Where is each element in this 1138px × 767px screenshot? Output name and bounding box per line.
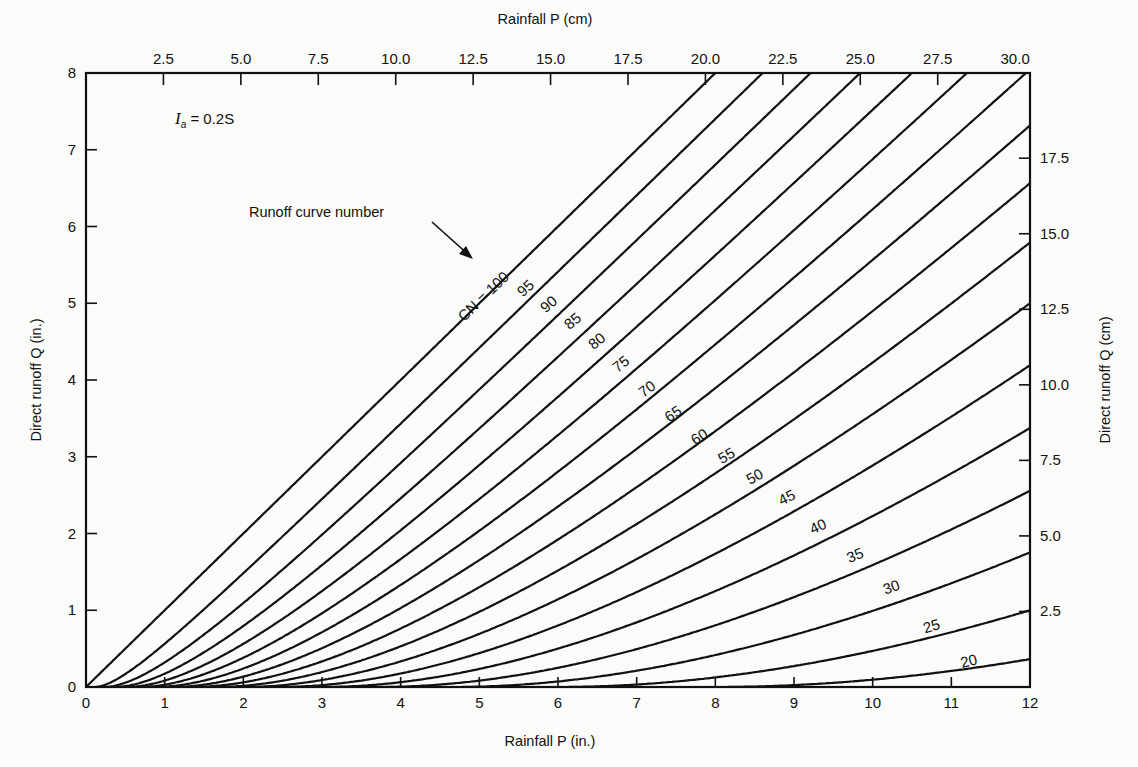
cn-curve-75 (86, 73, 967, 687)
cn-label-80: 80 (585, 329, 609, 353)
y-tick-label: 5 (68, 294, 76, 311)
x-tick-label: 10 (864, 694, 881, 711)
y-tick-label: 0 (68, 678, 76, 695)
cn-label-100: CN = 100 (454, 268, 512, 325)
y-right-tick-label: 10.0 (1040, 376, 1069, 393)
x-top-tick-label: 15.0 (536, 50, 565, 67)
formula-rest: = 0.2S (186, 110, 234, 127)
x-top-tick-label: 12.5 (459, 50, 488, 67)
runoff-curve-number-annotation: Runoff curve number (249, 204, 384, 220)
x-tick-label: 9 (790, 694, 798, 711)
y-right-tick-label: 7.5 (1040, 451, 1061, 468)
y-tick-label: 2 (68, 525, 76, 542)
y-right-tick-label: 2.5 (1040, 602, 1061, 619)
x-tick-label: 8 (711, 694, 719, 711)
y-tick-label: 4 (68, 371, 76, 388)
x-tick-label: 12 (1022, 694, 1039, 711)
cn-label-60: 60 (688, 425, 711, 448)
x-tick-label: 6 (554, 694, 562, 711)
x-tick-label: 1 (160, 694, 168, 711)
cn-curve-55 (86, 243, 1030, 688)
runoff-chart: CN = 10095908580757065605550454035302520… (0, 0, 1138, 767)
y-right-tick-label: 15.0 (1040, 225, 1069, 242)
x-top-tick-label: 25.0 (846, 50, 875, 67)
x-top-tick-label: 2.5 (153, 50, 174, 67)
y-right-tick-label: 17.5 (1040, 149, 1069, 166)
cn-label-45: 45 (775, 486, 797, 509)
y-tick-label: 6 (68, 218, 76, 235)
x-top-tick-label: 27.5 (923, 50, 952, 67)
annotation-arrow-icon (432, 222, 473, 259)
x-top-tick-label: 20.0 (691, 50, 720, 67)
cn-label-35: 35 (844, 544, 866, 566)
bottom-axis-title: Rainfall P (in.) (505, 733, 596, 749)
axis-ticks: 01234567891011120123456782.55.07.510.012… (68, 50, 1070, 711)
x-tick-label: 3 (318, 694, 326, 711)
cn-label-40: 40 (807, 515, 829, 537)
cn-label-25: 25 (921, 615, 942, 636)
x-tick-label: 5 (475, 694, 483, 711)
x-tick-label: 2 (239, 694, 247, 711)
x-top-tick-label: 22.5 (768, 50, 797, 67)
cn-curve-85 (86, 73, 861, 687)
cn-label-85: 85 (561, 309, 585, 333)
y-right-tick-label: 12.5 (1040, 300, 1069, 317)
cn-curve-90 (86, 73, 812, 687)
y-tick-label: 7 (68, 141, 76, 158)
x-tick-label: 7 (632, 694, 640, 711)
x-tick-label: 0 (82, 694, 90, 711)
cn-curve-45 (86, 365, 1030, 687)
cn-curve-50 (86, 303, 1030, 687)
cn-label-30: 30 (880, 576, 901, 598)
y-tick-label: 8 (68, 64, 76, 81)
cn-label-50: 50 (743, 465, 766, 488)
cn-label-55: 55 (715, 444, 738, 467)
y-right-tick-label: 5.0 (1040, 527, 1061, 544)
x-top-tick-label: 5.0 (230, 50, 251, 67)
x-tick-label: 11 (944, 694, 960, 711)
top-axis-title: Rainfall P (cm) (498, 11, 593, 27)
cn-curve-80 (86, 73, 914, 687)
x-top-tick-label: 17.5 (613, 50, 642, 67)
x-tick-label: 4 (396, 694, 404, 711)
y-tick-label: 1 (68, 601, 76, 618)
cn-curve-65 (86, 126, 1030, 688)
x-top-tick-label: 10.0 (381, 50, 410, 67)
formula-annotation: Ia = 0.2S (174, 109, 234, 130)
y-tick-label: 3 (68, 448, 76, 465)
x-top-tick-label: 7.5 (308, 50, 329, 67)
cn-label-75: 75 (609, 352, 633, 376)
cn-label-70: 70 (635, 377, 658, 401)
cn-label-90: 90 (537, 292, 561, 316)
left-axis-title: Direct runoff Q (in.) (28, 318, 44, 441)
cn-label-65: 65 (661, 402, 684, 425)
x-top-tick-label: 30.0 (1001, 50, 1030, 67)
right-axis-title: Direct runoff Q (cm) (1097, 316, 1113, 443)
